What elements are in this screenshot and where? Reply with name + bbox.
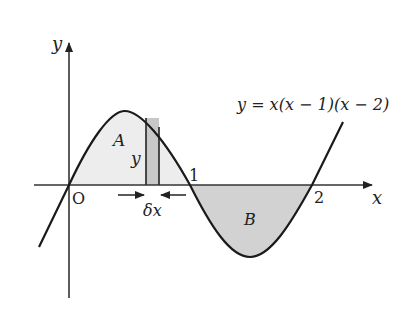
x-axis-label: x — [372, 187, 382, 208]
y-axis-label: y — [51, 33, 63, 54]
cubic-area-diagram: y x O 1 2 A y B δx y = x(x − 1)(x − 2) — [0, 0, 415, 317]
strip-height-label: y — [130, 148, 141, 168]
equation-label: y = x(x − 1)(x − 2) — [236, 95, 389, 114]
region-a-label: A — [111, 130, 125, 150]
tick-label-1: 1 — [189, 166, 199, 185]
origin-label: O — [72, 189, 85, 208]
region-b-label: B — [243, 210, 256, 229]
delta-x-label: δx — [143, 201, 162, 220]
tick-label-2: 2 — [314, 188, 324, 207]
